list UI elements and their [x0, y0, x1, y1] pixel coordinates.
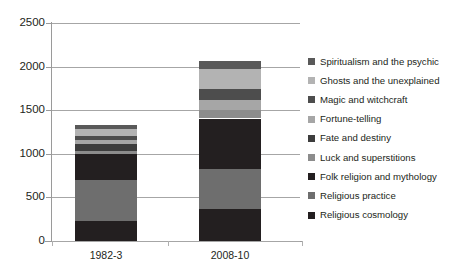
legend-label: Fate and destiny [320, 133, 391, 143]
legend-item[interactable]: Fortune-telling [308, 110, 448, 129]
bar-segment [199, 69, 261, 89]
x-tick-divider-0 [52, 241, 53, 246]
bar-segment [75, 151, 137, 154]
legend-swatch-icon [308, 173, 315, 180]
legend-swatch-icon [308, 212, 315, 219]
x-tick-divider-2 [302, 241, 303, 246]
legend-swatch-icon [308, 116, 315, 123]
bar-segment [199, 209, 261, 241]
legend-label: Magic and witchcraft [320, 95, 407, 105]
y-tick-mark-2000 [46, 67, 52, 68]
y-tick-mark-1000 [46, 154, 52, 155]
bar-segment [199, 100, 261, 110]
y-tick-label-1500: 1500 [19, 104, 45, 116]
bar-segment [199, 61, 261, 69]
legend-label: Ghosts and the unexplained [320, 76, 439, 86]
legend-swatch-icon [308, 77, 315, 84]
y-tick-mark-500 [46, 197, 52, 198]
legend-label: Spiritualism and the psychic [320, 57, 439, 67]
legend-item[interactable]: Magic and witchcraft [308, 90, 448, 109]
y-tick-mark-1500 [46, 110, 52, 111]
x-tick-divider-1 [168, 241, 169, 246]
legend-item[interactable]: Folk religion and mythology [308, 167, 448, 186]
x-tick-label-0: 1982-3 [66, 250, 146, 261]
bar-stack [199, 61, 261, 241]
y-tick-mark-2500 [46, 23, 52, 24]
legend-label: Luck and superstitions [320, 153, 415, 163]
legend-label: Fortune-telling [320, 114, 381, 124]
bar-segment [199, 110, 261, 119]
chart-legend: Spiritualism and the psychicGhosts and t… [308, 52, 448, 225]
y-tick-label-2000: 2000 [19, 61, 45, 73]
bar-segment [75, 140, 137, 143]
bar-segment [199, 89, 261, 100]
legend-swatch-icon [308, 58, 315, 65]
y-tick-label-1000: 1000 [19, 148, 45, 160]
legend-swatch-icon [308, 154, 315, 161]
legend-item[interactable]: Spiritualism and the psychic [308, 52, 448, 71]
bar-stack [75, 125, 137, 241]
legend-label: Religious practice [320, 191, 396, 201]
gridline-1500 [52, 110, 300, 111]
gridline-2500 [52, 23, 300, 24]
bar-segment [199, 169, 261, 209]
legend-label: Folk religion and mythology [320, 172, 437, 182]
gridline-0 [52, 241, 300, 242]
legend-swatch-icon [308, 135, 315, 142]
plot-area [52, 23, 300, 241]
legend-swatch-icon [308, 96, 315, 103]
gridline-2000 [52, 67, 300, 68]
bar-segment [75, 125, 137, 129]
legend-label: Religious cosmology [320, 210, 408, 220]
bar-segment [75, 136, 137, 141]
x-tick-label-1: 2008-10 [190, 250, 270, 261]
bar-segment [75, 154, 137, 180]
legend-item[interactable]: Luck and superstitions [308, 148, 448, 167]
legend-item[interactable]: Fate and destiny [308, 129, 448, 148]
bar-segment [75, 129, 137, 135]
stacked-bar-chart: 05001000150020002500 1982-32008-10 Spiri… [0, 0, 449, 270]
bar-segment [75, 180, 137, 221]
legend-item[interactable]: Religious cosmology [308, 206, 448, 225]
bar-segment [199, 119, 261, 169]
y-tick-label-500: 500 [26, 191, 45, 203]
y-tick-label-2500: 2500 [19, 17, 45, 29]
bar-segment [75, 144, 137, 151]
legend-item[interactable]: Religious practice [308, 186, 448, 205]
legend-swatch-icon [308, 192, 315, 199]
bar-segment [75, 221, 137, 241]
legend-item[interactable]: Ghosts and the unexplained [308, 71, 448, 90]
